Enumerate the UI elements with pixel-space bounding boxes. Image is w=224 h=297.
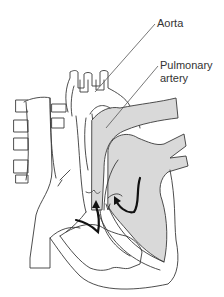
label-pulmonary: Pulmonary <box>160 59 213 72</box>
coronary-detail <box>58 170 70 186</box>
heart-diagram <box>0 0 224 297</box>
aorta-leader <box>95 24 155 92</box>
label-aorta: Aorta <box>157 17 183 30</box>
label-artery: artery <box>160 72 188 85</box>
